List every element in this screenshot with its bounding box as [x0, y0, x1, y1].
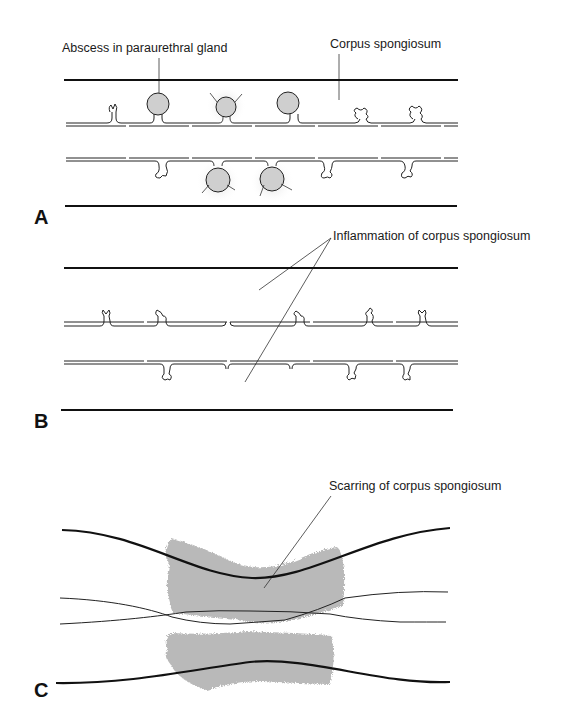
- abscess-4: [206, 168, 230, 192]
- abscess-5: [260, 167, 284, 191]
- urethra-lower-wall-b: [64, 361, 458, 380]
- panel-a: A Abscess in paraurethral gland Corpus s…: [34, 37, 458, 228]
- annotation-corpus-spongiosum-a: Corpus spongiosum: [330, 37, 441, 51]
- scar-tissue-upper: [164, 537, 343, 622]
- annotation-abscess-paraurethral-gland: Abscess in paraurethral gland: [62, 41, 227, 55]
- abscess-3: [277, 92, 299, 114]
- annotation-scarring-corpus-spongiosum: Scarring of corpus spongiosum: [329, 479, 501, 493]
- panel-c-label: C: [34, 679, 48, 701]
- leader-line-inflammation-2: [245, 238, 331, 382]
- urethral-stricture-diagram: A Abscess in paraurethral gland Corpus s…: [0, 0, 586, 712]
- urethra-upper-wall-b: [64, 308, 458, 326]
- urethra-upper-wall-a: [66, 104, 458, 126]
- panel-b: B Inflammation of corpus spongiosum: [34, 229, 530, 432]
- panel-c: C Scarring of corpus spongiosum: [34, 479, 501, 701]
- leader-line-inflammation-1: [259, 238, 331, 290]
- abscess-2: [216, 97, 236, 117]
- abscess-1: [147, 93, 169, 115]
- panel-b-label: B: [34, 410, 48, 432]
- scar-tissue-lower: [165, 630, 333, 689]
- annotation-inflammation-corpus-spongiosum: Inflammation of corpus spongiosum: [333, 229, 530, 243]
- panel-a-label: A: [34, 206, 48, 228]
